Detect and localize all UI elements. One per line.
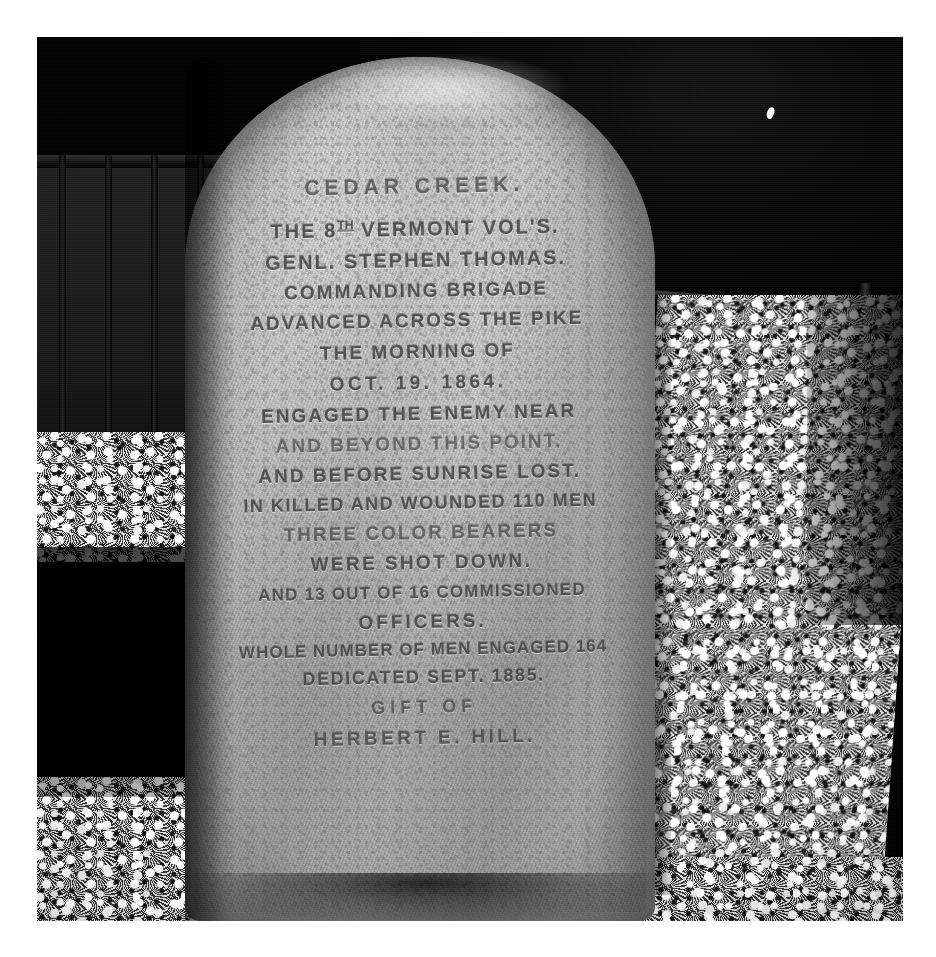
inscription-line-title: CEDAR CREEK. (205, 171, 623, 200)
stone-base-shadow (177, 873, 677, 921)
regiment-post: VERMONT VOL'S. (353, 215, 559, 241)
inscription-line-dedicated: DEDICATED SEPT. 1885. (214, 664, 632, 690)
inscription-line-role: COMMANDING BRIGADE (207, 277, 625, 304)
inscription-line-action5: AND BEFORE SUNRISE LOST. (211, 460, 629, 487)
inscription-line-commander: GENL. STEPHEN THOMAS. (206, 246, 624, 274)
regiment-superscript: TH (337, 218, 354, 232)
inscription-line-action1: ADVANCED ACROSS THE PIKE (208, 307, 626, 334)
fence-bar (151, 155, 158, 455)
inscription-line-officers1: AND 13 OUT OF 16 COMMISSIONED (213, 580, 631, 605)
regiment-pre: THE 8 (270, 219, 337, 242)
fence-bar (105, 155, 112, 455)
inscription-line-colors2: WERE SHOT DOWN. (212, 549, 630, 576)
inscription-line-casualties: IN KILLED AND WOUNDED 110 MEN (211, 490, 629, 516)
fence-bar (59, 155, 66, 455)
inscription-line-date: OCT. 19. 1864. (209, 369, 627, 396)
photo-page: CEDAR CREEK. THE 8TH VERMONT VOL'S. GENL… (0, 0, 936, 957)
granite-monument-stone: CEDAR CREEK. THE 8TH VERMONT VOL'S. GENL… (185, 57, 655, 921)
carved-inscription: CEDAR CREEK. THE 8TH VERMONT VOL'S. GENL… (177, 53, 664, 921)
inscription-line-gift: GIFT OF (215, 694, 633, 720)
inscription-line-colors1: THREE COLOR BEARERS (212, 519, 630, 546)
inscription-line-action2: THE MORNING OF (208, 338, 626, 365)
inscription-line-regiment: THE 8TH VERMONT VOL'S. (206, 214, 624, 243)
inscription-line-donor: HERBERT E. HILL. (216, 724, 634, 751)
inscription-line-action4: AND BEYOND THIS POINT. (210, 430, 628, 457)
inscription-line-action3: ENGAGED THE ENEMY NEAR (209, 400, 627, 427)
monument-photograph: CEDAR CREEK. THE 8TH VERMONT VOL'S. GENL… (37, 37, 903, 921)
inscription-line-strength: WHOLE NUMBER OF MEN ENGAGED 164 (214, 637, 632, 662)
shadow-far-right (807, 295, 903, 625)
inscription-line-officers2: OFFICERS. (213, 608, 631, 635)
